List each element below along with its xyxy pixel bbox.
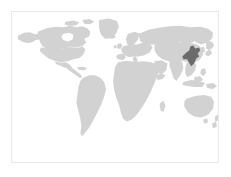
world-locator-map: [0, 0, 231, 177]
map-frame: [11, 11, 219, 163]
map-canvas: [12, 12, 218, 162]
